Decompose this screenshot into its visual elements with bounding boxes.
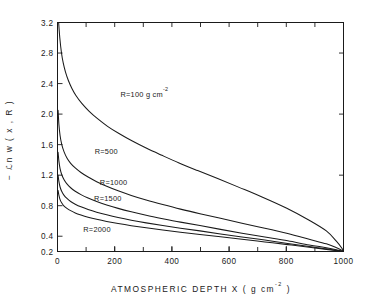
atmospheric-depth-plot: 02004006008001000 0.20.40.81.21.62.02.42… xyxy=(0,0,374,304)
y-tick-label: 0.8 xyxy=(41,202,54,211)
curve-label-2: R=500 xyxy=(95,147,118,156)
x-axis-tick-labels: 02004006008001000 xyxy=(55,257,353,266)
curve-label-4: R=1500 xyxy=(94,194,122,203)
y-axis-title: − ℒn w ( x , R ) xyxy=(4,100,14,180)
curve-label-1: R=100 g cm-2 xyxy=(120,86,168,99)
x-axis-title: ATMOSPHERIC DEPTH X ( g cm-2 ) xyxy=(111,281,291,294)
y-axis-major-ticks xyxy=(58,23,344,252)
x-tick-label: 400 xyxy=(164,257,179,266)
y-tick-label: 2.0 xyxy=(41,110,54,119)
y-tick-label: 3.2 xyxy=(41,19,54,28)
x-tick-label: 0 xyxy=(55,257,60,266)
curve-1 xyxy=(59,23,344,252)
x-tick-label: 600 xyxy=(222,257,237,266)
svg-text:− ℒn w ( x , R ): − ℒn w ( x , R ) xyxy=(4,100,14,180)
x-axis-minor-ticks xyxy=(58,23,344,252)
y-tick-label: 1.6 xyxy=(41,141,54,150)
curve-label-3: R=1000 xyxy=(100,178,128,187)
plot-frame xyxy=(58,23,344,252)
y-axis-tick-labels: 0.20.40.81.21.62.02.42.83.2 xyxy=(41,19,54,257)
figure-container: 02004006008001000 0.20.40.81.21.62.02.42… xyxy=(0,0,374,304)
x-tick-label: 800 xyxy=(279,257,294,266)
data-curves xyxy=(58,23,343,252)
y-tick-label: 2.4 xyxy=(41,80,54,89)
y-tick-label: 2.8 xyxy=(41,49,54,58)
x-tick-label: 1000 xyxy=(334,257,354,266)
axis-frame xyxy=(58,23,344,252)
y-tick-label: 0.4 xyxy=(41,232,54,241)
x-tick-label: 200 xyxy=(107,257,122,266)
y-tick-label: 0.2 xyxy=(41,248,54,257)
y-tick-label: 1.2 xyxy=(41,171,54,180)
curve-label-5: R=2000 xyxy=(83,225,111,234)
